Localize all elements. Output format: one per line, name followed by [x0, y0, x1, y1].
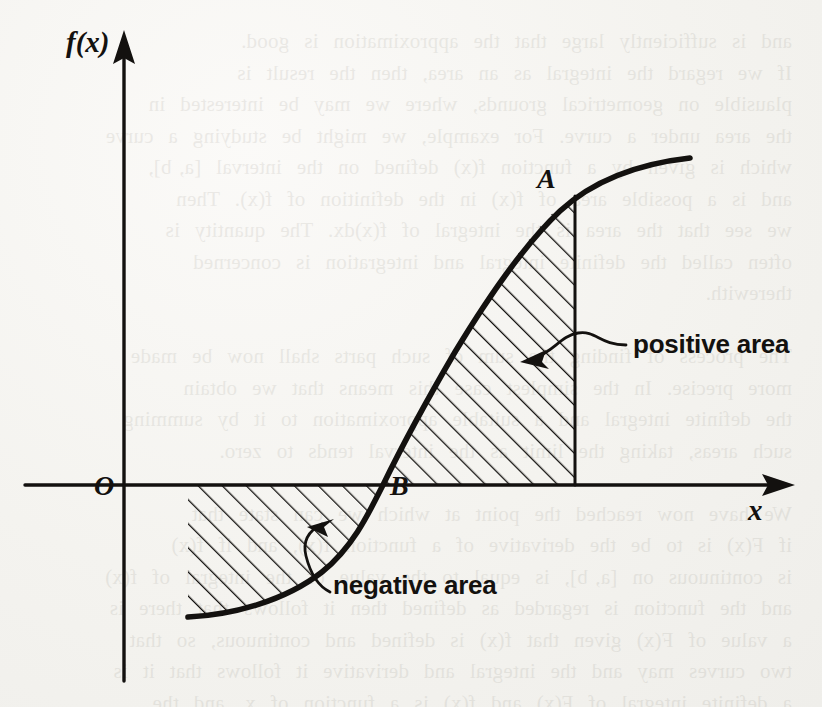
- origin-label: O: [94, 470, 114, 502]
- negative-area-label: negative area: [333, 570, 497, 601]
- figure-container: and is sufficiently large that the appro…: [0, 0, 822, 707]
- point-label-A: A: [537, 163, 556, 195]
- y-axis-label: f(x): [66, 26, 109, 59]
- positive-area-label: positive area: [633, 329, 789, 360]
- y-axis: [113, 30, 135, 681]
- negative-area-hatching: [180, 480, 395, 630]
- x-axis-label: x: [748, 494, 763, 527]
- point-label-B: B: [390, 470, 409, 502]
